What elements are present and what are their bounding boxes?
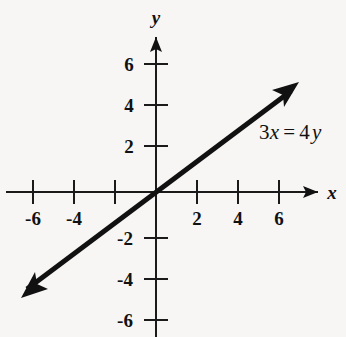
y-tick-label--6: -6 [117,311,133,330]
y-axis-label: y [152,8,160,27]
x-tick-label-6: 6 [274,209,284,228]
equation-lhs-coefficient: 3 [259,120,270,144]
y-tick-label--4: -4 [117,270,133,289]
equation-relation: = [279,120,299,144]
x-tick-label--4: -4 [66,209,82,228]
equation-rhs-coefficient: 4 [299,120,310,144]
y-tick-label-2: 2 [124,137,134,156]
x-tick-label--6: -6 [25,209,41,228]
y-tick-label--2: -2 [117,229,133,248]
y-tick-label-4: 4 [124,96,134,115]
x-tick-label-2: 2 [192,209,202,228]
graph-figure: -6 -4 2 4 6 6 4 2 -2 -4 -6 x y 3x=4y [0,0,346,337]
equation-rhs-variable: y [310,120,322,144]
equation-lhs-variable: x [270,120,280,144]
x-tick-label-4: 4 [233,209,243,228]
y-tick-label-6: 6 [124,55,134,74]
x-axis-label: x [327,183,337,202]
equation-annotation: 3x=4y [259,122,322,143]
coordinate-plane-svg [0,0,346,337]
plotted-line-3x-equals-4y [27,91,291,289]
